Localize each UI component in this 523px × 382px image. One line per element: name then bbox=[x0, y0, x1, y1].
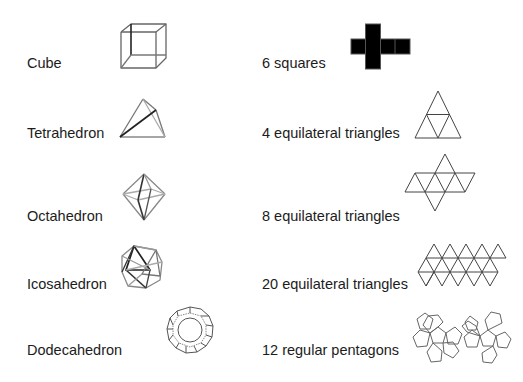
cube-net-icon bbox=[350, 23, 412, 71]
solid-label-tetrahedron: Tetrahedron bbox=[27, 125, 104, 141]
octahedron-wireframe-icon bbox=[121, 172, 167, 222]
tetrahedron-net-icon bbox=[414, 90, 464, 140]
tetrahedron-wireframe-icon bbox=[118, 95, 168, 140]
solid-label-dodecahedron: Dodecahedron bbox=[27, 342, 122, 358]
faces-label-icosahedron: 20 equilateral triangles bbox=[262, 276, 408, 292]
cube-wireframe-icon bbox=[118, 22, 168, 70]
solid-label-icosahedron: Icosahedron bbox=[27, 276, 107, 292]
solid-label-cube: Cube bbox=[27, 55, 62, 71]
faces-label-octahedron: 8 equilateral triangles bbox=[262, 208, 400, 224]
solid-label-octahedron: Octahedron bbox=[27, 208, 103, 224]
faces-label-tetrahedron: 4 equilateral triangles bbox=[262, 125, 400, 141]
icosahedron-wireframe-icon bbox=[120, 244, 164, 290]
faces-label-cube: 6 squares bbox=[262, 55, 326, 71]
octahedron-net-icon bbox=[405, 160, 477, 220]
faces-label-dodecahedron: 12 regular pentagons bbox=[262, 342, 399, 358]
dodecahedron-wireframe-icon bbox=[165, 305, 215, 355]
dodecahedron-net-icon bbox=[410, 310, 522, 368]
icosahedron-net-icon bbox=[418, 244, 500, 300]
